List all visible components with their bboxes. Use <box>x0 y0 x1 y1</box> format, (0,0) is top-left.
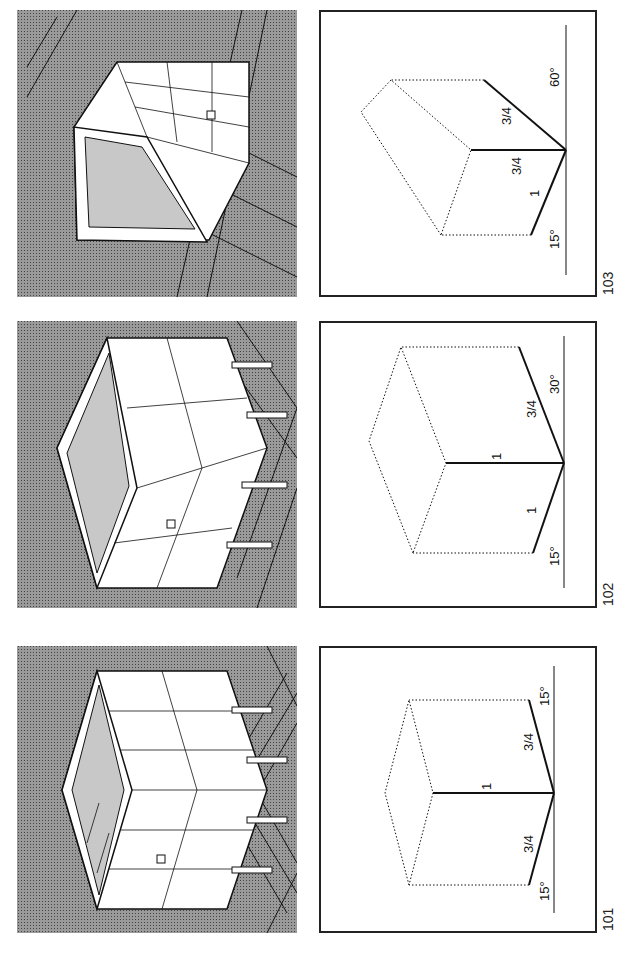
left-edge-label: 1 <box>524 507 539 514</box>
vertical-edge-label: 1 <box>479 783 494 790</box>
building-illustration-103 <box>17 10 297 297</box>
figure-102: 15° 1 1 3/4 30° 102 <box>0 321 637 608</box>
figure-number-101: 101 <box>600 908 616 931</box>
vertical-edge-label: 3/4 <box>509 157 524 175</box>
building-drawing-icon <box>17 646 297 933</box>
right-edge-label: 3/4 <box>521 733 536 751</box>
left-angle-label: 15° <box>547 546 562 566</box>
figure-number-103: 103 <box>600 272 616 295</box>
right-angle-label: 30° <box>547 374 562 394</box>
right-angle-label: 15° <box>537 686 552 706</box>
left-edge-label: 1 <box>527 190 542 197</box>
figure-number-102: 102 <box>600 583 616 606</box>
building-illustration-102 <box>17 321 297 608</box>
left-angle-label: 15° <box>537 881 552 901</box>
right-edge-label: 3/4 <box>499 107 514 125</box>
right-angle-label: 60° <box>547 67 562 87</box>
building-drawing-icon <box>17 321 297 608</box>
building-illustration-101 <box>17 646 297 933</box>
vertical-edge-label: 1 <box>489 453 504 460</box>
left-edge-label: 3/4 <box>521 835 536 853</box>
left-angle-label: 15° <box>547 229 562 249</box>
projection-diagram-102: 15° 1 1 3/4 30° <box>319 321 597 608</box>
figure-103: 15° 1 3/4 3/4 60° 103 <box>0 10 637 297</box>
building-drawing-icon <box>17 10 297 297</box>
right-edge-label: 3/4 <box>524 400 539 418</box>
projection-diagram-103: 15° 1 3/4 3/4 60° <box>319 10 597 297</box>
figure-101: 15° 3/4 1 3/4 15° 101 <box>0 646 637 933</box>
projection-diagram-101: 15° 3/4 1 3/4 15° <box>319 646 597 933</box>
book-page: 15° 3/4 1 3/4 15° 101 <box>0 0 637 954</box>
